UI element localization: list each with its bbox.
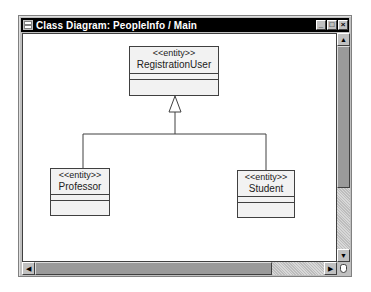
operations-compartment bbox=[130, 79, 218, 86]
vertical-scroll-thumb[interactable] bbox=[337, 46, 350, 188]
class-name: RegistrationUser bbox=[130, 59, 218, 70]
class-stereotype: <<entity>> bbox=[51, 170, 109, 181]
scroll-up-button[interactable]: ▲ bbox=[337, 33, 350, 46]
class-stereotype: <<entity>> bbox=[238, 172, 294, 183]
class-name: Student bbox=[238, 183, 294, 194]
horizontal-scroll-thumb[interactable] bbox=[35, 262, 272, 275]
close-button[interactable]: × bbox=[338, 20, 348, 30]
window-menu-icon[interactable] bbox=[23, 20, 33, 30]
title-bar[interactable]: Class Diagram: PeopleInfo / Main _ □ × bbox=[21, 18, 349, 32]
class-stereotype: <<entity>> bbox=[130, 48, 218, 59]
class-name: Professor bbox=[51, 181, 109, 192]
diagram-canvas[interactable]: <<entity>> RegistrationUser <<entity>> P… bbox=[22, 33, 337, 262]
scroll-left-button[interactable]: ◀ bbox=[22, 262, 35, 275]
class-diagram-window: Class Diagram: PeopleInfo / Main _ □ × <… bbox=[18, 15, 352, 277]
scrollbar-corner bbox=[337, 262, 350, 275]
class-student[interactable]: <<entity>> Student bbox=[237, 170, 295, 218]
operations-compartment bbox=[238, 202, 294, 209]
scroll-right-button[interactable]: ▶ bbox=[324, 262, 337, 275]
generalization-arrowhead-icon bbox=[169, 96, 181, 112]
vertical-scrollbar[interactable]: ▲ ▼ bbox=[337, 33, 350, 262]
window-title: Class Diagram: PeopleInfo / Main bbox=[36, 20, 197, 31]
minimize-button[interactable]: _ bbox=[316, 20, 326, 30]
operations-compartment bbox=[51, 200, 109, 207]
maximize-button[interactable]: □ bbox=[327, 20, 337, 30]
scroll-down-button[interactable]: ▼ bbox=[337, 249, 350, 262]
horizontal-scrollbar[interactable]: ◀ ▶ bbox=[22, 262, 337, 275]
class-registration-user[interactable]: <<entity>> RegistrationUser bbox=[129, 46, 219, 96]
hand-cursor-icon bbox=[340, 264, 347, 273]
class-professor[interactable]: <<entity>> Professor bbox=[50, 168, 110, 216]
